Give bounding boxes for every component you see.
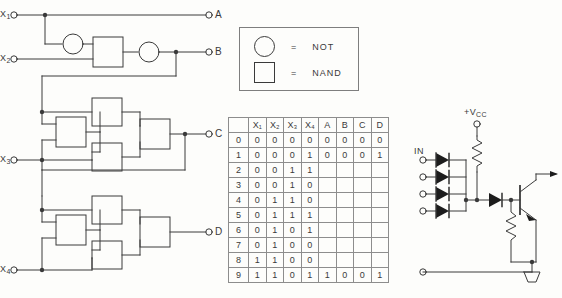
truth-table-cell: 0 xyxy=(301,238,319,253)
truth-table-row: 30010 xyxy=(229,178,389,193)
truth-table-cell: 1 xyxy=(371,148,389,163)
truth-table-cell: 0 xyxy=(301,193,319,208)
truth-table-row: 100010001 xyxy=(229,148,389,163)
truth-table-cell: 1 xyxy=(301,163,319,178)
resistor-pullup xyxy=(472,136,482,172)
truth-table-header-A: A xyxy=(319,118,337,133)
label-x4: X4 xyxy=(0,264,11,275)
truth-table-cell xyxy=(336,253,354,268)
truth-table-body: X₁X₂X₃X₄ABCD0000000001000100012001130010… xyxy=(229,118,389,283)
truth-table-cell xyxy=(319,163,337,178)
diode-in-4 xyxy=(436,204,449,218)
truth-table-cell: 0 xyxy=(354,133,372,148)
terminal-out-d xyxy=(206,229,212,235)
truth-table-row-index: 1 xyxy=(229,148,249,163)
gate-nand-c2 xyxy=(56,117,86,147)
gate-nand-b xyxy=(93,37,123,67)
truth-table-cell xyxy=(371,253,389,268)
truth-table-cell: 1 xyxy=(284,178,302,193)
truth-table-header-X₂: X₂ xyxy=(266,118,284,133)
truth-table-cell xyxy=(354,208,372,223)
terminal-out-c xyxy=(206,131,212,137)
truth-table-cell xyxy=(336,208,354,223)
truth-table-cell: 1 xyxy=(266,253,284,268)
terminal-out-b xyxy=(206,49,212,55)
truth-table-cell xyxy=(319,238,337,253)
truth-table-row: 20011 xyxy=(229,163,389,178)
label-x1: X1 xyxy=(0,9,11,20)
truth-table-cell: 0 xyxy=(354,148,372,163)
truth-table-cell xyxy=(319,193,337,208)
terminal-x4 xyxy=(11,267,17,273)
gate-not-b xyxy=(63,34,83,54)
truth-table-cell xyxy=(371,223,389,238)
truth-table-cell xyxy=(336,193,354,208)
truth-table-cell: 1 xyxy=(371,268,389,283)
resistor-base xyxy=(506,200,516,262)
truth-table-cell xyxy=(319,178,337,193)
gate-nand-c1 xyxy=(92,98,122,126)
truth-table-cell: 0 xyxy=(319,133,337,148)
truth-table-cell: 0 xyxy=(249,208,267,223)
truth-table-cell: 1 xyxy=(284,193,302,208)
truth-table-cell xyxy=(371,238,389,253)
truth-table-cell xyxy=(336,163,354,178)
truth-table-cell xyxy=(336,238,354,253)
truth-table-header-index xyxy=(229,118,249,133)
truth-table-cell: 0 xyxy=(249,178,267,193)
truth-table-row-index: 7 xyxy=(229,238,249,253)
truth-table-cell: 1 xyxy=(301,148,319,163)
truth-table-cell xyxy=(336,178,354,193)
truth-table-cell: 0 xyxy=(284,253,302,268)
truth-table-cell xyxy=(319,208,337,223)
truth-table-cell xyxy=(354,238,372,253)
truth-table-cell: 0 xyxy=(249,133,267,148)
truth-table-cell: 0 xyxy=(284,223,302,238)
terminal-vcc xyxy=(474,121,480,127)
truth-table-cell: 1 xyxy=(266,223,284,238)
truth-table-cell: 1 xyxy=(249,253,267,268)
truth-table-header-D: D xyxy=(371,118,389,133)
legend-label-not: NOT xyxy=(312,42,334,52)
legend-box: = NOT = NAND xyxy=(239,27,359,91)
truth-table-cell xyxy=(371,208,389,223)
gate-nand-c4 xyxy=(140,119,170,149)
truth-table-cell: 0 xyxy=(266,178,284,193)
truth-table-cell: 1 xyxy=(301,268,319,283)
truth-table-cell: 1 xyxy=(319,268,337,283)
truth-table-cell: 0 xyxy=(336,148,354,163)
gate-nand-d3 xyxy=(92,241,122,269)
label-vcc: +VCC xyxy=(464,107,487,118)
truth-table-cell: 0 xyxy=(284,148,302,163)
truth-table-cell: 1 xyxy=(284,208,302,223)
truth-table-cell: 0 xyxy=(249,163,267,178)
truth-table-cell: 0 xyxy=(284,238,302,253)
terminal-in-4 xyxy=(420,208,426,214)
truth-table-cell xyxy=(371,193,389,208)
truth-table-cell: 0 xyxy=(336,133,354,148)
truth-table-cell: 0 xyxy=(266,163,284,178)
truth-table-cell: 0 xyxy=(371,133,389,148)
legend-equals-not: = xyxy=(291,42,296,52)
truth-table-cell xyxy=(354,193,372,208)
truth-table: X₁X₂X₃X₄ABCD0000000001000100012001130010… xyxy=(228,117,389,283)
diode-in-1 xyxy=(436,153,449,167)
terminal-out-a xyxy=(206,12,212,18)
truth-table-row-index: 8 xyxy=(229,253,249,268)
truth-table-row: 911011001 xyxy=(229,268,389,283)
truth-table-cell: 0 xyxy=(266,148,284,163)
label-x3: X3 xyxy=(0,154,11,165)
transistor-collector-lead xyxy=(520,180,536,192)
diagram-canvas: X1 X2 X3 X4 A B C D = NOT = NAND X₁X₂X₃X… xyxy=(0,0,562,298)
gate-nand-c3 xyxy=(92,143,122,171)
truth-table-row-index: 6 xyxy=(229,223,249,238)
truth-table-header-C: C xyxy=(354,118,372,133)
truth-table-cell: 0 xyxy=(266,133,284,148)
truth-table-cell: 1 xyxy=(266,268,284,283)
truth-table-cell: 0 xyxy=(249,193,267,208)
legend-label-nand: NAND xyxy=(312,68,342,78)
label-out-c: C xyxy=(215,128,223,139)
truth-table-cell: 0 xyxy=(284,268,302,283)
gate-not-b2 xyxy=(139,42,159,62)
truth-table-row: 000000000 xyxy=(229,133,389,148)
